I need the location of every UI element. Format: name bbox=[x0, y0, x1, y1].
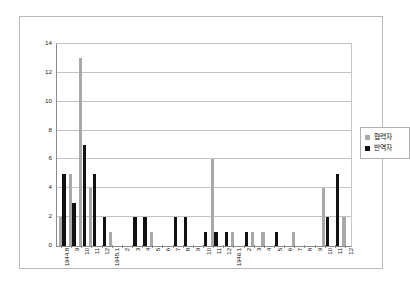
bar-group bbox=[209, 44, 219, 246]
bar bbox=[62, 174, 65, 246]
bar bbox=[69, 174, 72, 246]
x-tick-label: 11 bbox=[337, 248, 343, 254]
x-tick-label: 11 bbox=[94, 248, 100, 254]
bar bbox=[342, 217, 345, 246]
bar-group bbox=[189, 44, 199, 246]
x-tick-label: 6 bbox=[287, 248, 293, 251]
legend-swatch-icon bbox=[365, 146, 370, 151]
bar-group bbox=[118, 44, 128, 246]
bar bbox=[204, 232, 207, 246]
bar-group bbox=[199, 44, 209, 246]
x-tick-label: 10 bbox=[206, 248, 212, 255]
x-tick-label: 8 bbox=[307, 248, 313, 251]
bar bbox=[79, 58, 82, 246]
x-tick-mark bbox=[284, 245, 285, 248]
x-tick-mark bbox=[345, 245, 346, 248]
bar bbox=[89, 188, 92, 246]
bar bbox=[261, 232, 264, 246]
bars-layer bbox=[57, 44, 351, 246]
x-tick-mark bbox=[274, 245, 275, 248]
bar bbox=[225, 232, 228, 246]
chart-legend: 협력자반역자 bbox=[360, 127, 410, 159]
x-tick-mark bbox=[61, 245, 62, 248]
bar-group bbox=[300, 44, 310, 246]
bar bbox=[275, 232, 278, 246]
bar-group bbox=[239, 44, 249, 246]
y-tick-label: 12 bbox=[38, 69, 52, 75]
bar bbox=[322, 188, 325, 246]
legend-label: 협력자 bbox=[374, 134, 392, 141]
bar-group bbox=[67, 44, 77, 246]
bar bbox=[326, 217, 329, 246]
chart-frame: 02468101214 1944.891011121945.1234567891… bbox=[19, 16, 383, 269]
bar-group bbox=[310, 44, 320, 246]
bar-group bbox=[270, 44, 280, 246]
x-tick-label: 1944.8 bbox=[64, 248, 70, 266]
bar bbox=[211, 159, 214, 246]
legend-item[interactable]: 반역자 bbox=[365, 143, 405, 154]
x-tick-label: 8 bbox=[185, 248, 191, 251]
y-tick-label: 8 bbox=[38, 126, 52, 132]
bar-group bbox=[229, 44, 239, 246]
bar bbox=[336, 174, 339, 246]
y-axis-labels: 02468101214 bbox=[36, 43, 52, 247]
x-tick-label: 4 bbox=[266, 248, 272, 251]
bar-group bbox=[77, 44, 87, 246]
x-tick-label: 3 bbox=[256, 248, 262, 251]
x-tick-label: 9 bbox=[317, 248, 323, 251]
y-tick-label: 2 bbox=[38, 213, 52, 219]
x-tick-label: 4 bbox=[145, 248, 151, 251]
y-tick-label: 4 bbox=[38, 184, 52, 190]
bar-group bbox=[148, 44, 158, 246]
x-tick-label: 7 bbox=[175, 248, 181, 251]
x-tick-mark bbox=[213, 245, 214, 248]
x-tick-label: 1946.1 bbox=[236, 248, 242, 266]
bar-group bbox=[87, 44, 97, 246]
x-tick-label: 3 bbox=[135, 248, 141, 251]
x-tick-label: 1945.1 bbox=[114, 248, 120, 266]
bar-group bbox=[290, 44, 300, 246]
bar-group bbox=[250, 44, 260, 246]
x-tick-label: 5 bbox=[155, 248, 161, 251]
y-tick-label: 6 bbox=[38, 155, 52, 161]
y-tick-label: 0 bbox=[38, 242, 52, 248]
bar-group bbox=[179, 44, 189, 246]
bar-group bbox=[331, 44, 341, 246]
y-tick-label: 10 bbox=[38, 98, 52, 104]
bar-group bbox=[260, 44, 270, 246]
bar-group bbox=[219, 44, 229, 246]
x-tick-mark bbox=[132, 245, 133, 248]
bar-group bbox=[341, 44, 351, 246]
x-tick-label: 12 bbox=[104, 248, 110, 255]
bar-group bbox=[108, 44, 118, 246]
bar bbox=[231, 232, 234, 246]
bar bbox=[214, 232, 217, 246]
bar bbox=[292, 232, 295, 246]
x-tick-label: 9 bbox=[195, 248, 201, 251]
bar-group bbox=[138, 44, 148, 246]
legend-item[interactable]: 협력자 bbox=[365, 132, 405, 143]
bar-group bbox=[128, 44, 138, 246]
x-tick-label: 7 bbox=[297, 248, 303, 251]
x-tick-label: 6 bbox=[165, 248, 171, 251]
bar-group bbox=[98, 44, 108, 246]
bar bbox=[133, 217, 136, 246]
bar bbox=[245, 232, 248, 246]
bar bbox=[184, 217, 187, 246]
x-tick-label: 11 bbox=[216, 248, 222, 254]
bar bbox=[251, 232, 254, 246]
x-tick-mark bbox=[203, 245, 204, 248]
bar bbox=[72, 203, 75, 246]
bar-group bbox=[169, 44, 179, 246]
bar-group bbox=[321, 44, 331, 246]
bar-group bbox=[280, 44, 290, 246]
bar bbox=[93, 174, 96, 246]
x-tick-label: 5 bbox=[277, 248, 283, 251]
x-tick-label: 10 bbox=[327, 248, 333, 255]
x-tick-label: 12 bbox=[226, 248, 232, 255]
legend-swatch-icon bbox=[365, 135, 370, 140]
bar-group bbox=[158, 44, 168, 246]
bar bbox=[109, 232, 112, 246]
x-tick-label: 10 bbox=[84, 248, 90, 255]
